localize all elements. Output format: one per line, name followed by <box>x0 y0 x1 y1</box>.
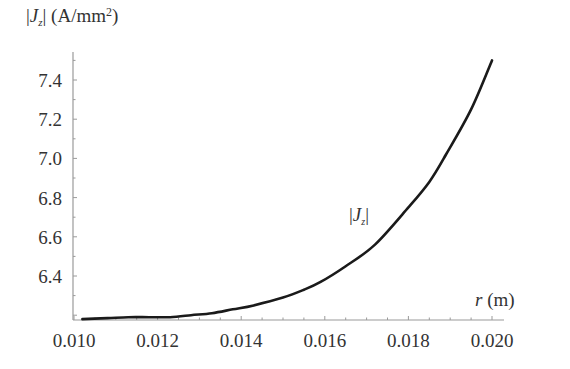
y-axis-label: |Jz| (A/mm2) <box>26 5 118 28</box>
curve-annotation: |Jz| <box>349 204 369 227</box>
line-chart: |Jz| (A/mm2) 6.46.66.87.07.27.4 0.0100.0… <box>0 0 570 369</box>
y-tick-label: 7.0 <box>38 148 62 169</box>
x-tick-label: 0.020 <box>471 330 514 351</box>
x-tick-label: 0.012 <box>136 330 179 351</box>
x-tick-label: 0.018 <box>387 330 430 351</box>
x-axis-ticks: 0.0100.0120.0140.0160.0180.020 <box>53 316 514 351</box>
y-tick-label: 7.4 <box>38 70 62 91</box>
axes <box>73 52 504 320</box>
y-axis-ticks: 6.46.66.87.07.27.4 <box>38 60 77 315</box>
y-tick-label: 7.2 <box>38 109 62 130</box>
y-tick-label: 6.4 <box>38 266 62 287</box>
jz-curve <box>82 60 492 319</box>
x-tick-label: 0.014 <box>220 330 263 351</box>
x-tick-label: 0.010 <box>53 330 96 351</box>
x-axis-label: r (m) <box>475 289 515 311</box>
y-tick-label: 6.8 <box>38 188 62 209</box>
y-tick-label: 6.6 <box>38 227 62 248</box>
x-tick-label: 0.016 <box>303 330 346 351</box>
